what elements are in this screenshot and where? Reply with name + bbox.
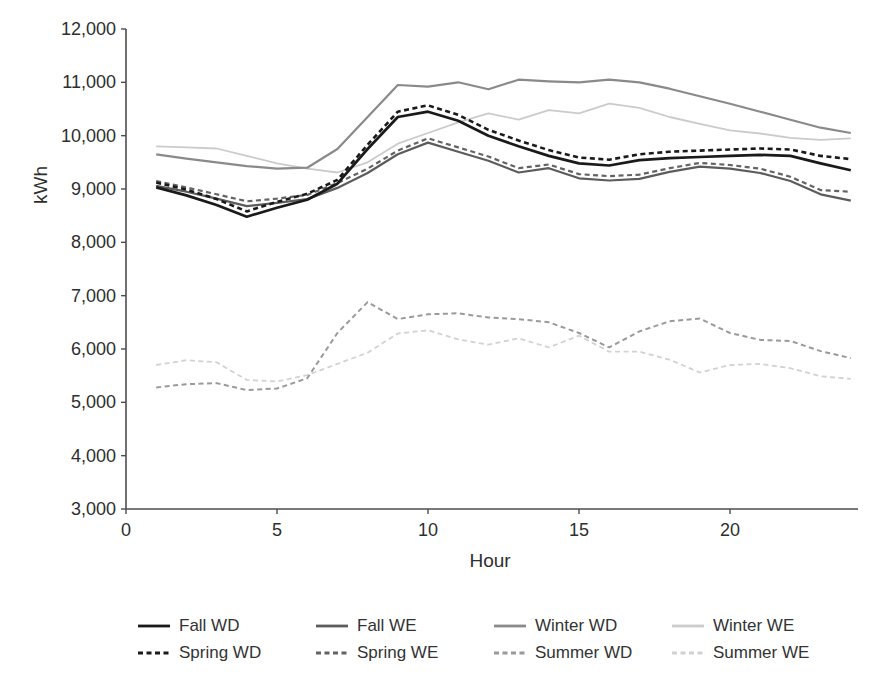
- legend-swatch-line: [316, 622, 348, 630]
- legend-swatch-line: [672, 622, 704, 630]
- y-tick-label: 10,000: [61, 126, 116, 146]
- legend-swatch-line: [316, 649, 348, 657]
- y-tick-label: 11,000: [62, 72, 116, 92]
- legend-item-spring-we: Spring WE: [316, 639, 494, 666]
- legend-item-spring-wd: Spring WD: [138, 639, 316, 666]
- legend-label: Fall WE: [357, 616, 417, 636]
- legend-item-summer-we: Summer WE: [672, 639, 862, 666]
- legend-label: Fall WD: [179, 616, 239, 636]
- legend-item-winter-we: Winter WE: [672, 612, 862, 639]
- y-tick-label: 6,000: [71, 339, 116, 359]
- x-tick-label: 20: [720, 520, 740, 540]
- legend-label: Winter WD: [535, 616, 617, 636]
- legend-item-winter-wd: Winter WD: [494, 612, 672, 639]
- legend-swatch-line: [138, 622, 170, 630]
- x-tick-label: 10: [418, 520, 438, 540]
- chart-legend: Fall WDFall WEWinter WDWinter WESpring W…: [138, 612, 862, 666]
- chart-canvas: 3,0004,0005,0006,0007,0008,0009,00010,00…: [0, 0, 875, 693]
- legend-label: Winter WE: [713, 616, 794, 636]
- legend-swatch-line: [672, 649, 704, 657]
- legend-item-fall-we: Fall WE: [316, 612, 494, 639]
- x-axis-title: Hour: [340, 550, 640, 572]
- y-tick-label: 4,000: [71, 446, 116, 466]
- y-tick-label: 12,000: [61, 19, 116, 39]
- y-tick-label: 8,000: [71, 232, 116, 252]
- legend-swatch-line: [494, 622, 526, 630]
- y-axis-title: kWh: [30, 140, 52, 230]
- legend-label: Spring WE: [357, 643, 438, 663]
- y-tick-label: 9,000: [71, 179, 116, 199]
- series-summer-we: [156, 330, 851, 381]
- legend-label: Summer WD: [535, 643, 632, 663]
- legend-swatch-line: [494, 649, 526, 657]
- x-tick-label: 15: [569, 520, 589, 540]
- legend-swatch-line: [138, 649, 170, 657]
- legend-item-fall-wd: Fall WD: [138, 612, 316, 639]
- legend-item-summer-wd: Summer WD: [494, 639, 672, 666]
- y-tick-label: 5,000: [71, 392, 116, 412]
- series-summer-wd: [156, 302, 851, 390]
- x-tick-label: 5: [272, 520, 282, 540]
- y-tick-label: 3,000: [71, 499, 116, 519]
- x-tick-label: 0: [121, 520, 131, 540]
- series-fall-we: [156, 143, 851, 207]
- legend-label: Spring WD: [179, 643, 261, 663]
- line-chart: 3,0004,0005,0006,0007,0008,0009,00010,00…: [0, 0, 875, 693]
- legend-label: Summer WE: [713, 643, 809, 663]
- y-tick-label: 7,000: [71, 286, 116, 306]
